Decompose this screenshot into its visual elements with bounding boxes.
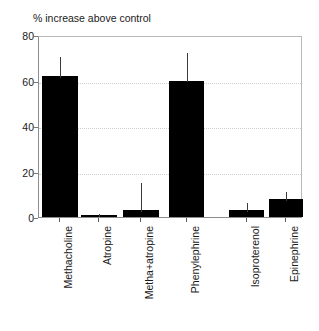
x-tick-mark-1 <box>98 218 99 222</box>
bar-methacholine <box>42 76 78 217</box>
y-tick-mark-0 <box>34 218 38 219</box>
x-tick-mark-4 <box>246 218 247 222</box>
bar-epinephrine <box>269 199 303 217</box>
y-tick-label-0: 0 <box>8 213 34 223</box>
x-tick-mark-3 <box>186 218 187 222</box>
error-bar-isoproterenol <box>247 203 248 212</box>
error-bar-metha-atropine <box>141 183 142 213</box>
x-tick-mark-0 <box>59 218 60 222</box>
bar-phenylephrine <box>169 81 204 218</box>
x-axis-label-metha-atropine: Metha+atropine <box>144 226 155 299</box>
x-axis-label-epinephrine: Epinephrine <box>289 226 300 282</box>
x-axis-label-isoproterenol: Isoproterenol <box>250 226 261 287</box>
y-tick-mark-20 <box>34 173 38 174</box>
error-bar-epinephrine <box>286 192 287 201</box>
y-tick-mark-60 <box>34 82 38 83</box>
y-tick-mark-40 <box>34 127 38 128</box>
x-tick-mark-2 <box>140 218 141 222</box>
y-tick-label-60: 60 <box>8 77 34 87</box>
y-tick-label-40: 40 <box>8 122 34 132</box>
y-tick-mark-80 <box>34 36 38 37</box>
x-axis-label-methacholine: Methacholine <box>63 226 74 288</box>
chart-title: % increase above control <box>33 12 151 24</box>
y-tick-label-80: 80 <box>8 31 34 41</box>
x-axis-label-atropine: Atropine <box>102 226 113 265</box>
x-tick-mark-5 <box>285 218 286 222</box>
y-axis: 020406080 <box>0 0 34 331</box>
error-bar-atropine <box>99 214 100 216</box>
bar-chart: % increase above control 020406080 Metha… <box>0 0 319 331</box>
error-bar-phenylephrine <box>187 53 188 83</box>
error-bar-methacholine <box>60 57 61 77</box>
y-tick-label-20: 20 <box>8 168 34 178</box>
x-axis-label-phenylephrine: Phenylephrine <box>190 226 201 293</box>
plot-area <box>38 36 302 218</box>
